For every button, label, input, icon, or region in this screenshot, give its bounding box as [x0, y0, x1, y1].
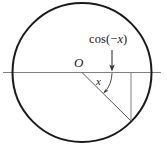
origin-label: O: [74, 56, 83, 69]
cosine-label-text: cos(−x): [89, 32, 127, 46]
cosine-label: cos(−x): [89, 33, 127, 46]
cosine-pointer-arrow: [109, 50, 115, 72]
radius-line: [82, 73, 131, 122]
unit-circle-figure: cos(−x) O x: [0, 0, 167, 151]
angle-arc: [103, 73, 112, 93]
figure-canvas: [0, 0, 167, 151]
angle-label: x: [96, 76, 101, 87]
